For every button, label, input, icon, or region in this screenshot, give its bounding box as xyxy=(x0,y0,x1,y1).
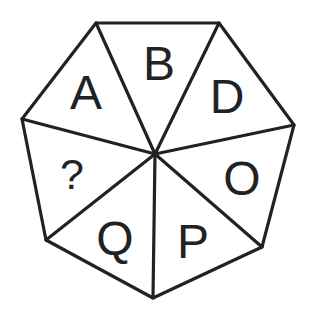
segment-label-bottom-left: Q xyxy=(96,212,133,265)
segment-label-bottom-right: P xyxy=(177,215,209,268)
spoke-left xyxy=(22,119,155,154)
missing-letter-question-mark: ? xyxy=(60,150,84,198)
segment-label-upper-left: A xyxy=(70,66,102,119)
segment-label-top: B xyxy=(143,37,175,90)
spoke-right xyxy=(155,125,294,154)
letter-heptagon-puzzle: A B D O P Q ? xyxy=(0,0,311,320)
spoke-bottom xyxy=(153,154,155,298)
segment-label-lower-right: O xyxy=(223,152,260,205)
segment-label-upper-right: D xyxy=(210,70,245,123)
